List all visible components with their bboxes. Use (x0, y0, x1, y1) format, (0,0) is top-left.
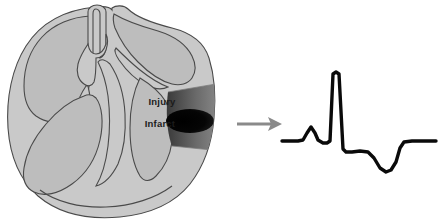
myocardial-infarction-diagram: Injury Infarct (0, 0, 441, 224)
label-infarct: Infarct (145, 118, 176, 129)
infarct-region (166, 82, 232, 152)
label-injury: Injury (148, 96, 176, 107)
heart-cross-section: Injury Infarct (8, 5, 232, 218)
flow-arrow (237, 117, 282, 131)
ecg-tracing (282, 72, 436, 172)
ecg-waveform-path (282, 72, 436, 172)
